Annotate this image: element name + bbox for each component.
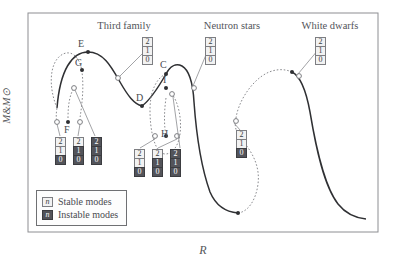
mass-radius-stability-figure: M&M⊙ R Third family Neutron stars White …	[0, 0, 406, 265]
point-label-H: H	[161, 128, 168, 139]
modes-third-family-top: 2 1 0	[142, 37, 153, 64]
mode-cell: 0	[55, 155, 66, 165]
mode-cell: 0	[152, 167, 163, 177]
leader-third-family-1	[57, 124, 60, 136]
legend-swatch-stable: n	[42, 197, 53, 207]
neutron-star-stable-curve	[142, 65, 238, 213]
open-marker-neutron-mid	[170, 92, 175, 97]
third-family-unstable-tail	[68, 88, 74, 118]
mode-cell: 0	[236, 148, 247, 158]
modes-neutron-star-branch-3: 2 1 0	[170, 149, 181, 176]
modes-neutron-star-branch-2: 2 1 0	[152, 149, 163, 176]
branch-title-third-family: Third family	[84, 20, 164, 31]
legend: n Stable modes n Instable modes	[36, 190, 127, 226]
modes-neutron-star-branch-1: 2 1 0	[134, 149, 145, 176]
mode-cell: 0	[91, 155, 102, 165]
open-marker-third-family-mid	[72, 86, 77, 91]
leader-white-dwarf-branch	[234, 123, 240, 130]
open-marker-third-family-right	[78, 120, 83, 125]
mode-cell: 0	[142, 55, 153, 65]
marker-E	[86, 50, 90, 54]
white-dwarf-stable-curve	[292, 72, 366, 219]
legend-label-stable: Stable modes	[58, 196, 112, 207]
point-label-G: G	[75, 57, 82, 68]
mode-cell: 0	[315, 55, 326, 65]
modes-third-family-left-2: 2 1 0	[73, 137, 84, 164]
open-marker-third-family-left	[55, 120, 60, 125]
legend-row-unstable: n Instable modes	[42, 208, 118, 221]
mode-cell: 0	[170, 167, 181, 177]
leader-neutron-1	[140, 139, 155, 148]
mode-cell: 0	[134, 167, 145, 177]
leader-third-family-2	[78, 124, 80, 136]
modes-neutron-stars-top: 2 1 0	[205, 37, 216, 64]
point-label-F: F	[64, 124, 70, 135]
branch-title-neutron-stars: Neutron stars	[192, 20, 272, 31]
marker-white-dwarf-peak	[290, 70, 294, 74]
open-marker-third-family-descent	[116, 76, 121, 81]
open-marker-neutron-descent	[192, 86, 197, 91]
leader-neutron-2	[158, 139, 177, 148]
point-label-C: C	[160, 59, 167, 70]
marker-I	[164, 86, 168, 90]
neutron-star-unstable-loop-inner	[160, 94, 181, 154]
open-marker-white-dwarf-peak	[297, 74, 302, 79]
mode-cell: 0	[205, 55, 216, 65]
modes-third-family-left-1: 2 1 0	[55, 137, 66, 164]
x-axis-label: R	[0, 243, 406, 258]
legend-label-unstable: Instable modes	[58, 209, 118, 220]
white-dwarf-unstable-rise	[236, 70, 292, 118]
mode-cell: 0	[73, 155, 84, 165]
point-label-I: I	[163, 74, 166, 85]
legend-row-stable: n Stable modes	[42, 195, 118, 208]
branch-title-white-dwarfs: White dwarfs	[290, 20, 370, 31]
marker-G	[80, 68, 84, 72]
modes-third-family-left-3: 2 1 0	[91, 137, 102, 164]
open-marker-neutron-left	[153, 134, 158, 139]
y-axis-label: M&M⊙	[2, 88, 16, 123]
leader-third-family-3	[75, 90, 95, 136]
point-label-D: D	[136, 92, 143, 103]
modes-white-dwarfs-top: 2 1 0	[315, 37, 326, 64]
marker-white-dwarf-min	[236, 211, 240, 215]
point-label-E: E	[78, 38, 84, 49]
legend-swatch-unstable: n	[42, 210, 53, 220]
modes-white-dwarf-branch: 2 1 0	[236, 130, 247, 157]
open-marker-white-dwarf-branch	[234, 119, 239, 124]
